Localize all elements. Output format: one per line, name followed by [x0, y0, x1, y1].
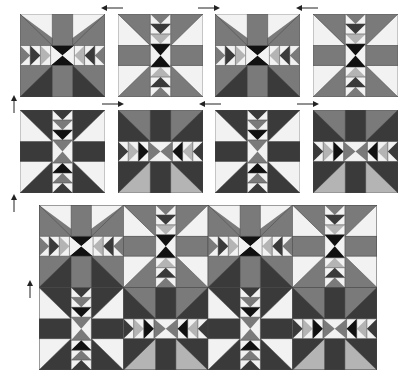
arrow-up-icon [10, 95, 18, 113]
quilt-block-b-dark [215, 110, 300, 193]
quilt-block-a [20, 14, 105, 97]
assembled-quilt [39, 205, 377, 370]
quilt-block-b [313, 14, 398, 97]
quilt-block-a-dark [313, 110, 398, 193]
quilt-block-a [215, 14, 300, 97]
arrow-right-icon [198, 4, 220, 12]
arrow-right-icon [102, 100, 124, 108]
arrow-left-icon [101, 4, 123, 12]
arrow-left-icon [199, 100, 221, 108]
quilt-block-a-dark [118, 110, 203, 193]
quilt-block-b-dark [20, 110, 105, 193]
arrow-up-icon [26, 280, 34, 298]
arrow-up-icon [10, 194, 18, 212]
arrow-right-icon [297, 100, 319, 108]
quilt-block-b [118, 14, 203, 97]
arrow-left-icon [296, 4, 318, 12]
